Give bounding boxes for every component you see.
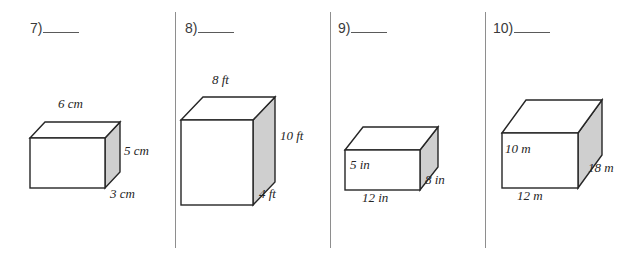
prism-figure-10 <box>485 0 642 260</box>
dim-label-10-depth: 18 m <box>588 160 614 176</box>
dim-label-7-right: 5 cm <box>124 143 149 159</box>
prism-figure-9 <box>330 0 485 260</box>
dim-label-9-depth: 8 in <box>425 172 445 188</box>
prism-7-front-face <box>30 138 105 188</box>
worksheet-page: 7) 6 cm 5 cm 3 cm 8) 8 ft 10 ft 4 ft <box>0 0 642 260</box>
problem-panel-10: 10) 10 m 12 m 18 m <box>485 0 642 260</box>
dim-label-10-bottom: 12 m <box>517 188 543 204</box>
dim-label-8-depth: 4 ft <box>259 186 276 202</box>
prism-7-top-face <box>30 122 120 138</box>
dim-label-8-right: 10 ft <box>280 128 303 144</box>
prism-figure-7 <box>0 0 175 260</box>
problem-panel-9: 9) 5 in 12 in 8 in <box>330 0 485 260</box>
dim-label-9-bottom: 12 in <box>362 190 388 206</box>
dim-label-7-depth: 3 cm <box>110 186 135 202</box>
dim-label-9-front: 5 in <box>350 157 370 173</box>
prism-8-front-face <box>181 120 253 205</box>
dim-label-7-top: 6 cm <box>58 96 83 112</box>
prism-figure-8 <box>175 0 330 260</box>
problem-panel-8: 8) 8 ft 10 ft 4 ft <box>175 0 330 260</box>
dim-label-8-top: 8 ft <box>212 72 229 88</box>
problem-panel-7: 7) 6 cm 5 cm 3 cm <box>0 0 175 260</box>
dim-label-10-front: 10 m <box>505 141 531 157</box>
